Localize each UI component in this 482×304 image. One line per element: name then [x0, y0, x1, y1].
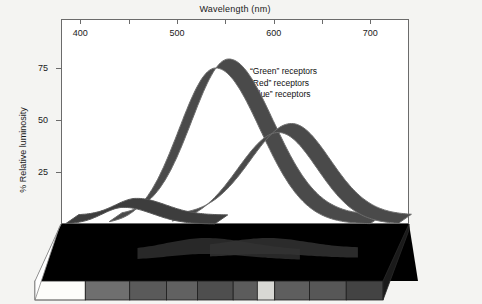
y-axis-title: % Relative luminosity — [18, 75, 28, 225]
y-tick-25 — [56, 172, 62, 173]
y-tick-label-50: 50 — [38, 115, 48, 125]
x-tick-700 — [370, 19, 371, 24]
y-tick-50 — [56, 120, 62, 121]
spectrum-swatch-green — [197, 281, 233, 300]
x-tick-label-700: 700 — [363, 28, 378, 38]
x-tick-label-400: 400 — [73, 28, 88, 38]
spectrum-swatch-yellow — [257, 281, 274, 300]
x-tick-650 — [322, 19, 323, 24]
y-tick-75 — [56, 68, 62, 69]
x-axis-title: Wavelength (nm) — [61, 4, 409, 14]
x-tick-label-600: 600 — [266, 28, 281, 38]
spectrum-swatch-violet — [85, 281, 130, 300]
x-tick-550 — [225, 19, 226, 24]
platform-top-face — [35, 224, 418, 281]
legend-item-green: “Green” receptors — [250, 66, 317, 78]
spectrum-swatch-deep-red — [346, 281, 383, 300]
y-tick-label-75: 75 — [38, 63, 48, 73]
chart-figure: Wavelength (nm) % Relative luminosity 40… — [0, 0, 482, 304]
spectrum-swatch-red — [310, 281, 347, 300]
spectrum-swatch-green-yellow — [233, 281, 257, 300]
legend: “Green” receptors “Red” receptors “Blue”… — [250, 66, 317, 101]
curve-shadow — [138, 238, 300, 260]
spectrum-swatch-white — [35, 281, 85, 300]
legend-item-red: “Red” receptors — [250, 78, 317, 90]
x-tick-500 — [177, 19, 178, 24]
curve-shadow — [210, 238, 358, 258]
platform-left-face — [35, 224, 61, 300]
x-tick-label-500: 500 — [169, 28, 184, 38]
x-tick-450 — [129, 19, 130, 24]
spectrum-swatch-cyan — [167, 281, 198, 300]
legend-item-blue: “Blue” receptors — [250, 89, 317, 101]
plot-frame — [61, 19, 409, 224]
spectrum-swatch-blue — [130, 281, 167, 300]
x-tick-600 — [274, 19, 275, 24]
y-tick-label-25: 25 — [38, 167, 48, 177]
spectrum-swatch-orange — [275, 281, 310, 300]
platform-right-face — [383, 224, 409, 300]
x-tick-400 — [80, 19, 81, 24]
